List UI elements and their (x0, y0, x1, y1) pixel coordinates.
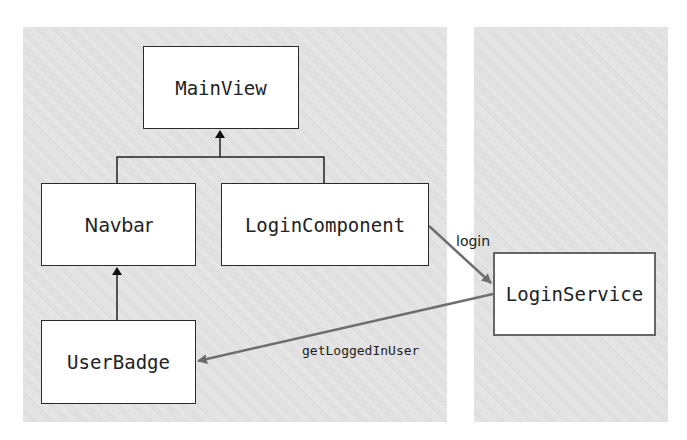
node-navbar: Navbar (41, 183, 196, 266)
edge-label-get-logged-in-user: getLoggedInUser (302, 343, 419, 358)
node-mainview: MainView (143, 46, 299, 129)
node-loginservice: LoginService (493, 252, 656, 336)
edge-children-to-mainview (117, 131, 324, 183)
edge-label-login: login (456, 233, 490, 249)
node-label: MainView (175, 77, 267, 99)
node-logincomponent: LoginComponent (221, 183, 429, 266)
node-label: LoginComponent (245, 214, 405, 236)
node-label: Navbar (84, 214, 153, 236)
node-label: UserBadge (67, 351, 170, 373)
node-userbadge: UserBadge (41, 320, 196, 404)
node-label: LoginService (506, 283, 643, 305)
